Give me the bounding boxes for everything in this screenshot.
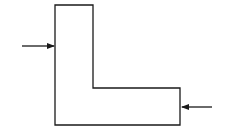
l-shape-outline [55, 5, 180, 125]
l-shape-diagram [0, 0, 231, 140]
